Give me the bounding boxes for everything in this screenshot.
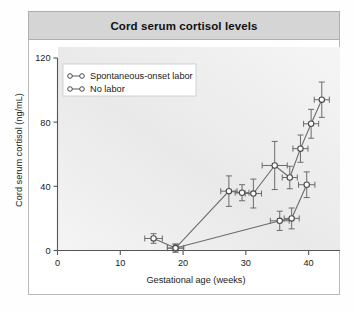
legend-marker-left — [68, 87, 73, 92]
marker-open-circle — [173, 245, 178, 250]
plot-container: 04080120 010203040 Cord serum cortisol (… — [0, 0, 354, 312]
cortisol-scatter-chart: 04080120 010203040 Cord serum cortisol (… — [0, 0, 354, 312]
x-axis-ticks — [58, 251, 309, 256]
legend-marker-right — [80, 87, 85, 92]
legend-label: Spontaneous-onset labor — [90, 71, 193, 81]
y-tick-label-80: 80 — [40, 118, 50, 128]
marker-open-circle — [277, 218, 282, 223]
marker-open-circle — [289, 216, 294, 221]
x-tick-label-0: 0 — [55, 258, 60, 268]
x-tick-label-40: 40 — [303, 258, 313, 268]
marker-open-circle — [308, 121, 313, 126]
y-tick-label-0: 0 — [45, 246, 50, 256]
marker-open-circle — [298, 146, 303, 151]
x-tick-label-10: 10 — [115, 258, 125, 268]
x-tick-label-30: 30 — [241, 258, 251, 268]
legend-marker-right — [80, 74, 85, 79]
y-tick-label-120: 120 — [35, 53, 50, 63]
marker-open-circle — [304, 182, 309, 187]
x-tick-label-20: 20 — [178, 258, 188, 268]
marker-open-circle — [251, 191, 256, 196]
marker-open-circle — [239, 190, 244, 195]
x-axis-title: Gestational age (weeks) — [146, 275, 245, 285]
y-tick-label-40: 40 — [40, 182, 50, 192]
figure-root: Cord serum cortisol levels 04080120 — [0, 0, 354, 312]
y-axis-tick-labels: 04080120 — [35, 53, 50, 256]
marker-open-circle — [226, 188, 231, 193]
marker-open-circle — [151, 236, 156, 241]
legend-marker-left — [68, 74, 73, 79]
y-axis-title: Cord serum cortisol (ng/mL) — [14, 93, 24, 207]
chart-legend: Spontaneous-onset laborNo labor — [63, 64, 196, 96]
legend-label: No labor — [90, 84, 125, 94]
marker-open-circle — [287, 175, 292, 180]
y-axis-ticks — [54, 58, 58, 251]
marker-open-circle — [319, 97, 324, 102]
x-axis-tick-labels: 010203040 — [55, 258, 314, 268]
marker-open-circle — [272, 163, 277, 168]
